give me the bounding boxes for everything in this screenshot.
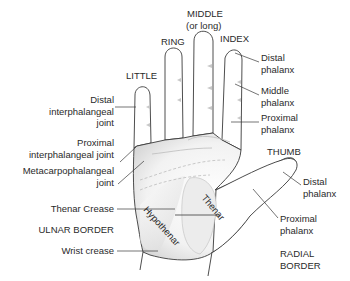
label-thumb: THUMB — [267, 146, 301, 158]
label-middle-line2: (or long) — [186, 20, 221, 32]
label-ring: RING — [161, 36, 185, 48]
hand-anatomy-diagram: Hypothenar Thenar LITTLE RING MIDDLE (or… — [0, 0, 350, 281]
label-index-proximal-phalanx: Proximal phalanx — [261, 112, 298, 135]
label-radial-border: RADIAL BORDER — [280, 248, 321, 271]
label-mcp-joint: Metacarpophalangeal joint — [23, 165, 114, 188]
label-ulnar-border: ULNAR BORDER — [39, 224, 115, 236]
label-thumb-distal-phalanx: Distal phalanx — [303, 176, 336, 199]
little-finger — [134, 87, 151, 148]
label-index-distal-phalanx: Distal phalanx — [261, 52, 294, 75]
label-thumb-proximal-phalanx: Proximal phalanx — [280, 213, 317, 236]
ring-finger — [165, 48, 183, 140]
label-index-middle-phalanx: Middle phalanx — [261, 85, 294, 108]
label-thenar-crease: Thenar Crease — [51, 203, 114, 215]
label-little: LITTLE — [126, 70, 157, 82]
label-pip-joint: Proximal interphalangeal joint — [29, 137, 114, 160]
label-index: INDEX — [220, 33, 249, 45]
label-middle-line1: MIDDLE — [187, 8, 223, 20]
label-dip-joint: Distal interphalangeal joint — [49, 94, 114, 129]
middle-finger — [193, 31, 213, 136]
label-wrist-crease: Wrist crease — [61, 245, 114, 257]
